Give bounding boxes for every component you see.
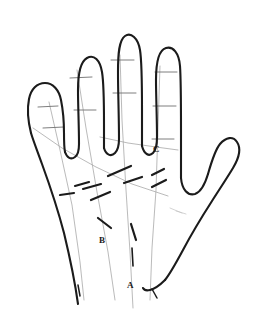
label-a: A [127, 280, 134, 290]
label-b: B [99, 235, 105, 245]
figure-canvas: C B A [0, 0, 256, 323]
label-c: C [153, 144, 160, 154]
canvas-background [0, 0, 256, 323]
hand-diagram: C B A [0, 0, 256, 323]
dash-pointer-to-a-lower [132, 248, 133, 266]
